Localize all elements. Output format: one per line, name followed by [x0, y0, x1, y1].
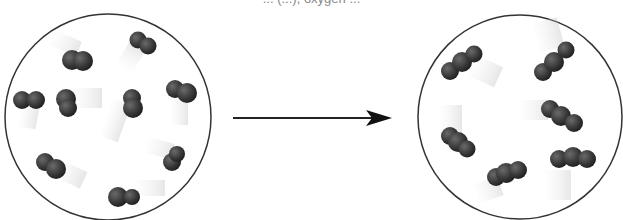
reaction-diagram — [0, 0, 623, 220]
left-container-o2 — [5, 14, 211, 220]
right-container-o3 — [418, 15, 622, 219]
o2-molecule — [108, 187, 140, 207]
o2-molecule — [62, 50, 93, 71]
reaction-arrow — [233, 110, 392, 126]
